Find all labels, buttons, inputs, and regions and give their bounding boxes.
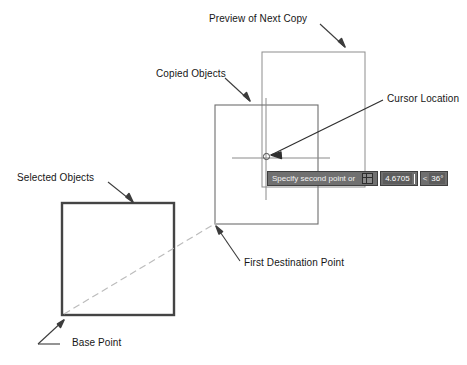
grid-icon[interactable] xyxy=(362,173,373,184)
selected-objects-rect xyxy=(62,203,174,315)
dynamic-input-bar[interactable]: Specify second point or 4.6705 < 36° xyxy=(267,171,448,186)
angle-input-field[interactable]: < 36° xyxy=(420,171,449,186)
leader-arrowhead-first-destination xyxy=(216,226,223,234)
angle-input-value: 36° xyxy=(429,173,445,184)
distance-input-value: 4.6705 xyxy=(383,173,411,184)
command-prompt: Specify second point or xyxy=(267,171,378,186)
preview-next-copy-rect xyxy=(262,52,365,187)
label-cursor-location: Cursor Location xyxy=(387,93,459,104)
leader-cursor-location xyxy=(271,100,383,155)
leader-arrowhead-copied-objects xyxy=(244,93,251,102)
displacement-guide-line xyxy=(64,223,216,314)
label-base-point: Base Point xyxy=(72,337,121,348)
leader-arrowhead-selected-objects xyxy=(126,194,133,203)
distance-input-field[interactable]: 4.6705 xyxy=(380,171,417,186)
leader-arrowhead-preview xyxy=(339,39,346,48)
leader-arrowhead-base-point xyxy=(58,320,65,328)
text-caret xyxy=(414,174,415,184)
label-selected-objects: Selected Objects xyxy=(17,172,94,183)
angle-prefix-icon: < xyxy=(423,173,428,184)
label-first-destination-point: First Destination Point xyxy=(244,257,344,268)
command-prompt-text: Specify second point or xyxy=(272,172,355,185)
label-preview-of-next-copy: Preview of Next Copy xyxy=(209,13,307,24)
label-copied-objects: Copied Objects xyxy=(156,68,226,79)
diagram-canvas: Preview of Next Copy Copied Objects Curs… xyxy=(0,0,467,365)
